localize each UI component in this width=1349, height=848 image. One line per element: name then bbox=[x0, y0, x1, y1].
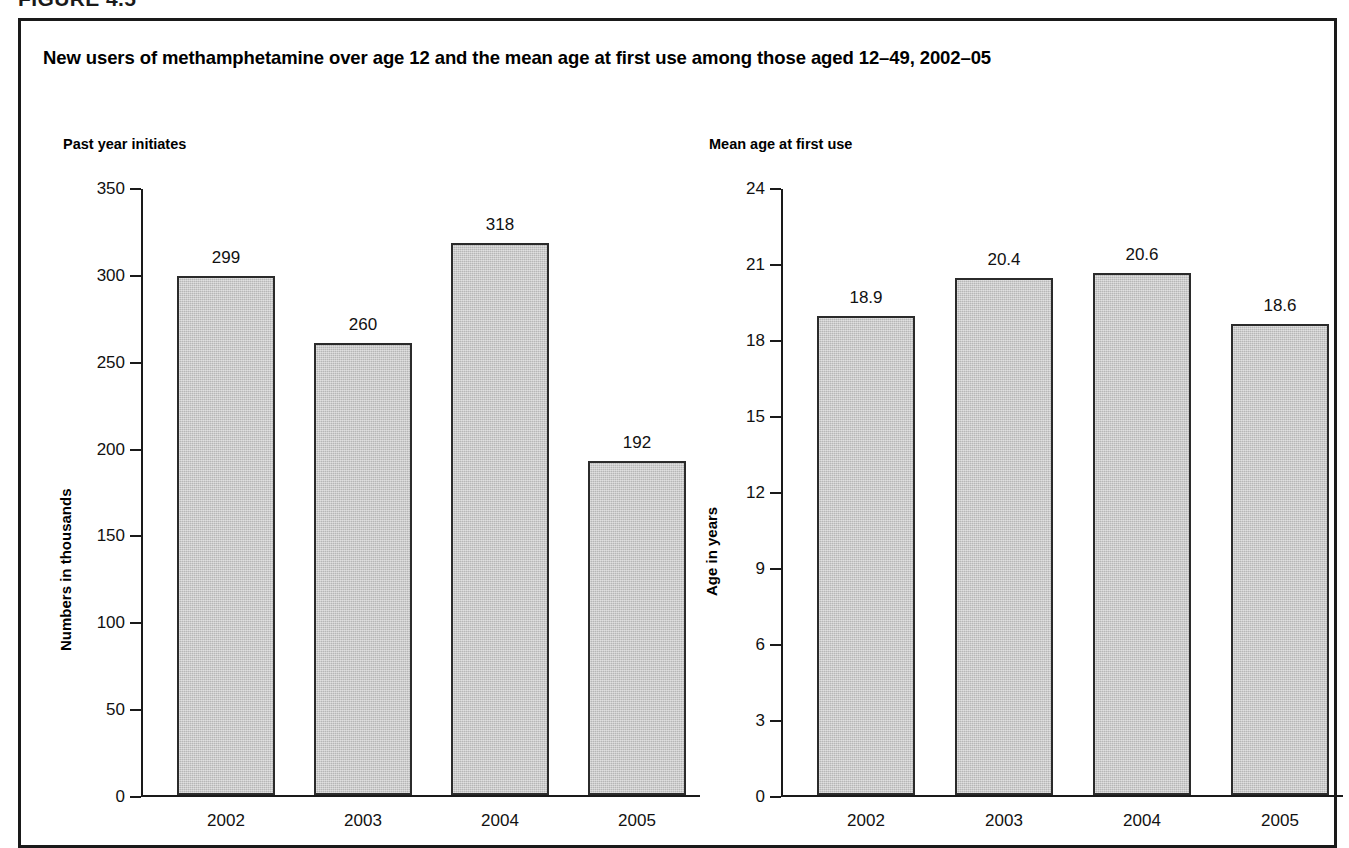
y-tick-label-left-7: 350 bbox=[97, 179, 125, 199]
bar-slot: 2602003 bbox=[314, 189, 412, 795]
x-axis-category-label: 2005 bbox=[618, 811, 656, 831]
bar-value-label: 260 bbox=[349, 315, 377, 335]
bar bbox=[1093, 273, 1191, 795]
y-tick-label-right-8: 24 bbox=[746, 179, 765, 199]
y-tick-left-2 bbox=[130, 622, 141, 624]
y-tick-left-6 bbox=[130, 275, 141, 277]
x-axis-line-left bbox=[141, 795, 700, 797]
bar-slot: 18.62005 bbox=[1231, 189, 1329, 795]
figure-title: New users of methamphetamine over age 12… bbox=[43, 47, 991, 69]
y-tick-left-3 bbox=[130, 535, 141, 537]
y-tick-left-4 bbox=[130, 449, 141, 451]
y-axis-title-left: Numbers in thousands bbox=[57, 488, 74, 651]
figure-frame: New users of methamphetamine over age 12… bbox=[18, 18, 1337, 848]
x-axis-category-label: 2004 bbox=[481, 811, 519, 831]
y-tick-left-7 bbox=[130, 188, 141, 190]
bar-value-label: 20.6 bbox=[1125, 245, 1158, 265]
bar bbox=[1231, 324, 1329, 795]
y-tick-label-right-2: 6 bbox=[756, 635, 765, 655]
x-axis-category-label: 2003 bbox=[985, 811, 1023, 831]
y-tick-right-5 bbox=[770, 416, 781, 418]
chart-subtitle-right: Mean age at first use bbox=[709, 136, 852, 152]
y-tick-left-0 bbox=[130, 796, 141, 798]
bar bbox=[314, 343, 412, 795]
x-axis-category-label: 2004 bbox=[1123, 811, 1161, 831]
chart-panel-past-year-initiates: Past year initiates Numbers in thousands… bbox=[43, 121, 688, 821]
y-tick-label-right-0: 0 bbox=[756, 787, 765, 807]
bar bbox=[955, 278, 1053, 795]
chart-subtitle-left: Past year initiates bbox=[63, 136, 186, 152]
chart-panel-mean-age-at-first-use: Mean age at first use Age in years 03691… bbox=[693, 121, 1338, 821]
y-tick-label-right-1: 3 bbox=[756, 711, 765, 731]
bar-slot: 20.42003 bbox=[955, 189, 1053, 795]
y-tick-label-right-4: 12 bbox=[746, 483, 765, 503]
bar-slot: 1922005 bbox=[588, 189, 686, 795]
y-tick-right-6 bbox=[770, 340, 781, 342]
bar-value-label: 18.6 bbox=[1263, 296, 1296, 316]
bar bbox=[817, 316, 915, 795]
y-tick-label-right-5: 15 bbox=[746, 407, 765, 427]
bar-value-label: 18.9 bbox=[849, 288, 882, 308]
y-tick-label-left-5: 250 bbox=[97, 353, 125, 373]
y-tick-label-right-3: 9 bbox=[756, 559, 765, 579]
bar-value-label: 318 bbox=[486, 215, 514, 235]
x-axis-category-label: 2005 bbox=[1261, 811, 1299, 831]
y-tick-right-8 bbox=[770, 188, 781, 190]
y-tick-label-right-6: 18 bbox=[746, 331, 765, 351]
y-tick-left-1 bbox=[130, 709, 141, 711]
plot-area-right: 03691215182124 18.9200220.4200320.620041… bbox=[781, 189, 1343, 797]
bar-slot: 3182004 bbox=[451, 189, 549, 795]
y-tick-label-left-3: 150 bbox=[97, 526, 125, 546]
y-tick-left-5 bbox=[130, 362, 141, 364]
y-tick-right-0 bbox=[770, 796, 781, 798]
x-axis-category-label: 2003 bbox=[344, 811, 382, 831]
y-tick-label-left-6: 300 bbox=[97, 266, 125, 286]
y-tick-right-1 bbox=[770, 720, 781, 722]
x-axis-category-label: 2002 bbox=[207, 811, 245, 831]
bar-group-left: 2992002260200331820041922005 bbox=[143, 189, 700, 795]
bar bbox=[177, 276, 275, 795]
y-tick-right-3 bbox=[770, 568, 781, 570]
y-axis-title-right: Age in years bbox=[703, 507, 720, 596]
bar-slot: 2992002 bbox=[177, 189, 275, 795]
plot-area-left: 050100150200250300350 299200226020033182… bbox=[141, 189, 700, 797]
y-tick-label-right-7: 21 bbox=[746, 255, 765, 275]
y-tick-right-7 bbox=[770, 264, 781, 266]
y-tick-right-4 bbox=[770, 492, 781, 494]
bar-group-right: 18.9200220.4200320.6200418.62005 bbox=[783, 189, 1343, 795]
bar-value-label: 192 bbox=[623, 433, 651, 453]
y-tick-right-2 bbox=[770, 644, 781, 646]
x-axis-category-label: 2002 bbox=[847, 811, 885, 831]
bar-value-label: 20.4 bbox=[987, 250, 1020, 270]
figure-number: FIGURE 4.5 bbox=[18, 0, 136, 11]
bar-slot: 20.62004 bbox=[1093, 189, 1191, 795]
y-tick-label-left-4: 200 bbox=[97, 440, 125, 460]
y-tick-label-left-1: 50 bbox=[106, 700, 125, 720]
bar bbox=[588, 461, 686, 795]
x-axis-line-right bbox=[781, 795, 1343, 797]
bar-value-label: 299 bbox=[212, 248, 240, 268]
bar-slot: 18.92002 bbox=[817, 189, 915, 795]
bar bbox=[451, 243, 549, 795]
y-tick-label-left-2: 100 bbox=[97, 613, 125, 633]
y-tick-label-left-0: 0 bbox=[116, 787, 125, 807]
